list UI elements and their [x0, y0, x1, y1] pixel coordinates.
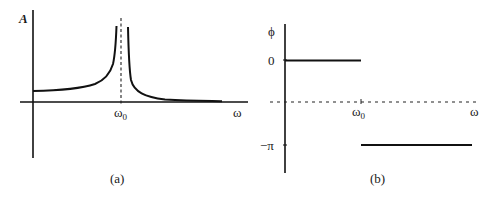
panel-b-tick-zero-label: 0 — [268, 53, 275, 68]
panel-b-phase: ϕ 0 −π ω0 ω (b) — [260, 24, 479, 186]
panel-b-caption: (b) — [370, 171, 385, 186]
resonance-figure: A ω0 ω (a) ϕ 0 −π ω0 ω (b) — [0, 0, 495, 199]
panel-b-x-label: ω — [470, 104, 479, 119]
panel-a-amplitude: A ω0 ω (a) — [18, 10, 248, 186]
panel-a-curve-left — [33, 26, 117, 91]
panel-a-curve-right — [128, 27, 222, 101]
panel-b-tick-omega0: ω0 — [352, 104, 366, 121]
panel-a-x-label: ω — [233, 105, 242, 120]
panel-b-tick-minus-pi-label: −π — [260, 138, 274, 153]
panel-a-y-label: A — [18, 11, 28, 26]
panel-b-y-label: ϕ — [268, 24, 275, 39]
panel-a-tick-omega0: ω0 — [114, 105, 128, 122]
panel-a-caption: (a) — [110, 171, 124, 186]
